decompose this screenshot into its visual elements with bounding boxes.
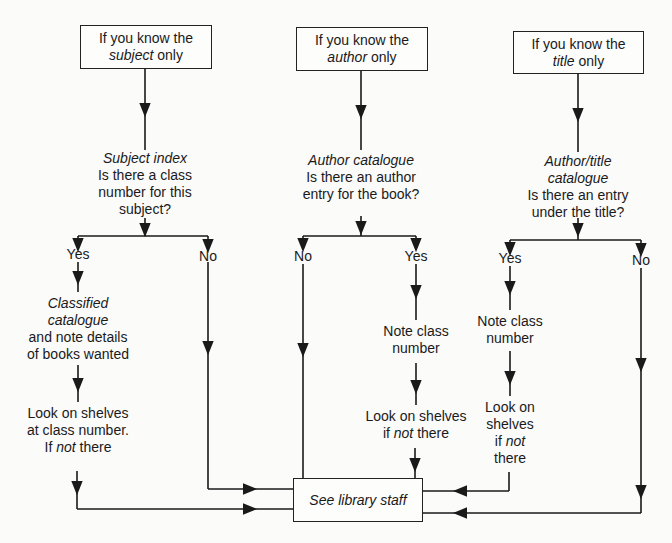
start-node-subject: If you know the subject only — [80, 25, 212, 69]
start-node-subject-emph: subject — [109, 47, 153, 63]
start-node-subject-line1: If you know the — [99, 30, 193, 47]
branch-title-yes: Yes — [490, 250, 530, 267]
step-look-on-shelves-title: Look on shelves if not there — [470, 399, 550, 467]
question-author-catalogue: Author catalogue Is there an author entr… — [296, 152, 426, 203]
start-node-author-rest: only — [367, 49, 397, 65]
step-line: Look on shelves — [18, 405, 138, 422]
step-heading: Classified — [18, 295, 138, 312]
step-line: there — [470, 450, 550, 467]
step-note-class-number-author: Note class number — [366, 323, 466, 357]
step-if: if — [383, 425, 394, 441]
step-classified-catalogue: Classified catalogue and note details of… — [18, 295, 138, 363]
question-subject-line: Is there a class — [85, 167, 205, 184]
step-look-on-shelves-author: Look on shelves if not there — [356, 408, 476, 442]
question-subject-heading: Subject index — [85, 150, 205, 167]
step-not: not — [394, 425, 413, 441]
step-line: and note details — [18, 329, 138, 346]
question-subject-line: number for this — [85, 184, 205, 201]
step-if: if — [495, 433, 506, 449]
question-author-line: entry for the book? — [296, 186, 426, 203]
step-line: shelves — [470, 416, 550, 433]
step-line: at class number. — [18, 422, 138, 439]
question-subject-index: Subject index Is there a class number fo… — [85, 150, 205, 218]
step-there: there — [76, 439, 112, 455]
step-note-class-number-title: Note class number — [460, 313, 560, 347]
step-not: not — [506, 433, 525, 449]
start-node-title: If you know the title only — [513, 31, 644, 74]
step-line: of books wanted — [18, 346, 138, 363]
start-node-author-emph: author — [327, 49, 367, 65]
question-title-heading: catalogue — [518, 170, 638, 187]
step-if: If — [45, 439, 57, 455]
flowchart-connectors — [0, 0, 672, 543]
step-line: Note class — [460, 313, 560, 330]
start-node-author-line1: If you know the — [315, 32, 409, 49]
question-title-line: under the title? — [518, 204, 638, 221]
start-node-title-rest: only — [575, 53, 605, 69]
question-title-line: Is there an entry — [518, 187, 638, 204]
start-node-subject-rest: only — [153, 47, 183, 63]
end-node-see-library-staff: See library staff — [293, 478, 423, 522]
step-not: not — [56, 439, 75, 455]
branch-subject-yes: Yes — [58, 246, 98, 263]
branch-author-yes: Yes — [396, 248, 436, 265]
step-line: number — [366, 340, 466, 357]
question-author-heading: Author catalogue — [296, 152, 426, 169]
step-there: there — [413, 425, 449, 441]
question-subject-line: subject? — [85, 201, 205, 218]
step-line: Look on shelves — [356, 408, 476, 425]
question-author-line: Is there an author — [296, 169, 426, 186]
question-author-title-catalogue: Author/title catalogue Is there an entry… — [518, 153, 638, 221]
branch-author-no: No — [288, 248, 318, 265]
step-line: Look on — [470, 399, 550, 416]
end-node-label: See library staff — [309, 492, 406, 509]
branch-title-no: No — [626, 252, 656, 269]
step-line: number — [460, 330, 560, 347]
start-node-author: If you know the author only — [296, 27, 428, 71]
step-line: Note class — [366, 323, 466, 340]
step-look-on-shelves-subject: Look on shelves at class number. If not … — [18, 405, 138, 456]
question-title-heading: Author/title — [518, 153, 638, 170]
start-node-title-line1: If you know the — [531, 36, 625, 53]
start-node-title-emph: title — [553, 53, 575, 69]
branch-subject-no: No — [193, 248, 223, 265]
step-heading: catalogue — [18, 312, 138, 329]
